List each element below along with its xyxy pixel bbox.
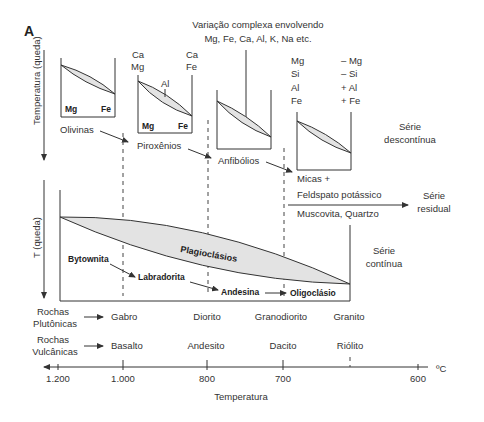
rock-diorito: Diorito bbox=[193, 311, 220, 322]
plagioclase-box bbox=[60, 190, 350, 301]
labradorita-arrow bbox=[190, 282, 218, 290]
series-continuous-2: contínua bbox=[366, 258, 403, 269]
mica-label-3: Muscovita, Quartzo bbox=[297, 208, 379, 219]
mica-left-mg: Mg bbox=[291, 55, 304, 66]
rock-granodiorito: Granodiorito bbox=[255, 311, 307, 322]
mica-left-al: Al bbox=[291, 82, 299, 93]
series-residual-1: Série bbox=[423, 190, 445, 201]
labradorita-label: Labradorita bbox=[138, 272, 185, 282]
axis-title: Temperatura bbox=[214, 391, 268, 402]
rock-riolito: Riólito bbox=[337, 340, 363, 351]
mica-left-si: Si bbox=[291, 68, 299, 79]
volcanic-label-2: Vulcânicas bbox=[32, 346, 78, 357]
plutonic-label-1: Rochas bbox=[37, 306, 69, 317]
pyroxene-mg-left: Mg bbox=[131, 61, 144, 72]
tick-700: 700 bbox=[275, 373, 291, 384]
mica-box: Mg Si Al Fe – Mg – Si + Al + Fe bbox=[291, 55, 362, 170]
tick-1000: 1.000 bbox=[111, 373, 135, 384]
rock-basalto: Basalto bbox=[111, 340, 143, 351]
mica-right-mg: – Mg bbox=[341, 55, 362, 66]
tick-1200: 1.200 bbox=[46, 373, 70, 384]
series-discontinuous-1: Série bbox=[399, 121, 421, 132]
tick-800: 800 bbox=[199, 373, 215, 384]
pyroxene-mg-label: Mg bbox=[142, 121, 154, 131]
rock-granito: Granito bbox=[333, 311, 364, 322]
olivine-box: Mg Fe bbox=[61, 58, 115, 117]
mica-label-1: Micas + bbox=[297, 173, 330, 184]
rock-dacito: Dacito bbox=[270, 340, 297, 351]
pyroxene-box: Ca Mg Ca Fe Al Mg Fe bbox=[131, 49, 199, 133]
top-note-line1: Variação complexa envolvendo bbox=[192, 19, 323, 30]
mica-right-al: + Al bbox=[341, 82, 357, 93]
olivine-arrow bbox=[100, 131, 128, 142]
bytownita-label: Bytownita bbox=[68, 254, 109, 264]
y-axis-bottom-label: T (queda) bbox=[31, 217, 42, 258]
pyroxene-fe-label: Fe bbox=[178, 121, 188, 131]
andesina-label: Andesina bbox=[221, 287, 260, 297]
top-note-line2: Mg, Fe, Ca, Al, K, Na etc. bbox=[204, 33, 311, 44]
series-continuous-1: Série bbox=[373, 245, 395, 256]
axis-unit: ºC bbox=[436, 363, 446, 374]
mica-left-fe: Fe bbox=[291, 95, 302, 106]
mica-right-si: – Si bbox=[341, 68, 357, 79]
tick-600: 600 bbox=[410, 373, 426, 384]
mica-label-2: Feldspato potássico bbox=[297, 189, 382, 200]
plutonic-label-2: Plutônicas bbox=[33, 318, 77, 329]
rock-gabro: Gabro bbox=[111, 311, 137, 322]
bytownita-arrow bbox=[110, 264, 135, 277]
y-axis-top-label: Temperatura (queda) bbox=[31, 36, 42, 125]
pyroxene-fe-right: Fe bbox=[186, 61, 197, 72]
pyroxene-label: Piroxênios bbox=[137, 140, 182, 151]
rock-andesito: Andesito bbox=[188, 340, 225, 351]
amphibole-label: Anfibólios bbox=[218, 155, 259, 166]
series-residual-2: residual bbox=[417, 203, 450, 214]
bowen-reaction-series-diagram: A Variação complexa envolvendo Mg, Fe, C… bbox=[0, 0, 484, 422]
mica-right-fe: + Fe bbox=[341, 95, 360, 106]
olivine-label: Olivinas bbox=[60, 124, 94, 135]
temperature-axis bbox=[44, 357, 428, 370]
oligoclasio-label: Oligoclásio bbox=[290, 288, 336, 298]
series-discontinuous-2: descontínua bbox=[384, 134, 436, 145]
olivine-mg-label: Mg bbox=[65, 104, 77, 114]
amphibole-box bbox=[217, 90, 271, 149]
volcanic-label-1: Rochas bbox=[37, 334, 69, 345]
olivine-fe-label: Fe bbox=[101, 104, 111, 114]
pyroxene-ca-left: Ca bbox=[132, 49, 145, 60]
amphibole-arrow bbox=[266, 162, 292, 172]
pyroxene-al-label: Al bbox=[161, 78, 169, 89]
pyroxene-ca-right: Ca bbox=[186, 49, 199, 60]
